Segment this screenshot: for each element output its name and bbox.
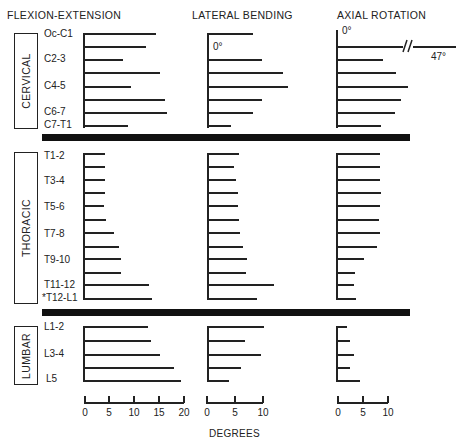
flexion-bar-c2-3	[83, 59, 123, 61]
lateral-bar-t2-3	[207, 166, 234, 168]
axial-bar-t4-5	[336, 192, 381, 194]
lateral-bar-t4-5	[207, 192, 238, 194]
axial-bar-t10-11	[336, 272, 355, 274]
axial-bar-l3-4	[336, 354, 354, 356]
flexion-thoracic-baseline	[83, 153, 85, 300]
axial-bar-t1-2	[336, 153, 380, 155]
axial-bar-c6-7	[336, 112, 395, 114]
flexion-bar-c4-5	[83, 86, 131, 88]
level-label-t12-l1: *T12-L1	[42, 292, 78, 304]
flexion-bar-t7-8	[83, 232, 114, 234]
lateral-bar-oc-c1	[207, 33, 253, 35]
lateral-bar-l4-5	[207, 367, 241, 369]
lateral-tick-label-5: 5	[232, 407, 238, 418]
axial-bar-t8-9	[336, 246, 377, 248]
level-label-t1-2: T1-2	[44, 150, 65, 162]
flexion-tick-label-15: 15	[153, 407, 164, 418]
lateral-bar-c3-4	[207, 72, 283, 74]
level-label-l3-4: L3-4	[44, 348, 64, 360]
axial-rotation-title: AXIAL ROTATION	[337, 9, 426, 21]
axial-tick-label-5: 5	[360, 407, 366, 418]
lateral-bar-t3-4	[207, 179, 236, 181]
lateral-bar-t9-10	[207, 258, 247, 260]
lateral-tick-10	[262, 396, 264, 403]
lateral-thoracic-baseline	[207, 153, 209, 300]
cervical-region-box: CERVICAL	[14, 33, 38, 129]
lateral-bar-t1-2	[207, 153, 239, 155]
lateral-bar-t11-12	[207, 284, 274, 286]
lateral-bar-l1-2	[207, 326, 264, 328]
flexion-bar-t6-7	[83, 219, 106, 221]
lateral-bar-l5-s1	[207, 380, 229, 382]
level-label-c2-3: C2-3	[44, 53, 66, 65]
flexion-bar-t2-3	[83, 166, 105, 168]
x-axis-label: DEGREES	[209, 428, 260, 439]
flexion-bar-t9-10	[83, 258, 121, 260]
flexion-bar-t10-11	[83, 272, 121, 274]
axial-bar-t9-10	[336, 258, 364, 260]
lateral-tick-0	[206, 396, 208, 403]
axial-bar-c5-6	[336, 99, 401, 101]
flexion-bar-l2-3	[83, 340, 151, 342]
axial-bar-t6-7	[336, 219, 379, 221]
axial-bar-t12-l1	[336, 298, 356, 300]
lateral-bar-c5-6	[207, 99, 262, 101]
flexion-bar-oc-c1	[83, 33, 156, 35]
flexion-tick-0	[84, 396, 86, 403]
axial-bar-c3-4	[336, 72, 396, 74]
axial-bar-c4-5	[336, 86, 408, 88]
axial-bar-t3-4	[336, 179, 380, 181]
axial-bar-c1-2-part1	[336, 46, 403, 48]
axial-bar-t7-8	[336, 232, 380, 234]
flexion-tick-10	[133, 396, 135, 403]
axial-bar-l1-2	[336, 326, 347, 328]
lateral-bending-title: LATERAL BENDING	[192, 9, 293, 21]
lateral-bar-c4-5	[207, 86, 288, 88]
flexion-bar-l3-4	[83, 354, 160, 356]
lateral-bar-t7-8	[207, 232, 240, 234]
flexion-tick-label-0: 0	[82, 407, 88, 418]
lateral-tick-5	[234, 396, 236, 403]
axial-zero-annotation: 0°	[342, 25, 352, 36]
flexion-tick-label-20: 20	[178, 407, 189, 418]
flexion-extension-title: FLEXION-EXTENSION	[7, 9, 121, 21]
level-label-l1-2: L1-2	[44, 321, 64, 333]
flexion-tick-5	[108, 396, 110, 403]
level-label-c6-7: C6-7	[44, 106, 66, 118]
flexion-tick-15	[158, 396, 160, 403]
lateral-bar-t5-6	[207, 205, 238, 207]
axial-tick-10	[387, 396, 389, 403]
flexion-tick-20	[183, 396, 185, 403]
level-label-t11-12: T11-12	[44, 279, 75, 291]
thoracic-label: THORACIC	[20, 199, 32, 257]
level-label-t3-4: T3-4	[44, 175, 65, 187]
flexion-bar-t11-12	[83, 284, 149, 286]
lateral-zero-annotation: 0°	[213, 41, 223, 52]
lateral-tick-label-10: 10	[257, 407, 268, 418]
flexion-bar-c7-t1	[83, 125, 128, 127]
axial-bar-t2-3	[336, 166, 380, 168]
level-label-c7-t1: C7-T1	[44, 119, 72, 131]
flexion-bar-t1-2	[83, 153, 105, 155]
flexion-bar-t5-6	[83, 205, 104, 207]
lateral-tick-label-0: 0	[204, 407, 210, 418]
flexion-tick-label-5: 5	[106, 407, 112, 418]
axial-bar-t5-6	[336, 205, 380, 207]
axial-thoracic-baseline	[336, 153, 338, 300]
axial-47-annotation: 47°	[431, 51, 446, 62]
flexion-bar-l5-s1	[83, 380, 181, 382]
flexion-bar-t12-l1	[83, 298, 152, 300]
lateral-bar-t10-11	[207, 272, 246, 274]
lateral-bar-l2-3	[207, 340, 245, 342]
level-label-t5-6: T5-6	[44, 201, 65, 213]
lateral-bar-l3-4	[207, 354, 261, 356]
thoracic-lumbar-divider	[42, 309, 410, 316]
lateral-bar-c2-3	[207, 59, 262, 61]
lumbar-label: LUMBAR	[20, 332, 32, 378]
axial-tick-label-0: 0	[335, 407, 341, 418]
flexion-tick-label-10: 10	[128, 407, 139, 418]
level-label-c4-5: C4-5	[44, 80, 66, 92]
axial-bar-c1-2-part2	[413, 46, 456, 48]
level-label-t9-10: T9-10	[44, 254, 70, 266]
flexion-bar-c1-2	[83, 46, 146, 48]
